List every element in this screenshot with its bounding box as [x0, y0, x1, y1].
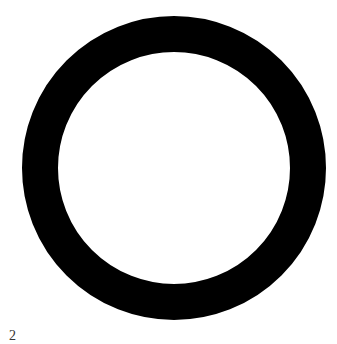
figure-number-label: 2 [9, 328, 16, 344]
black-ring [22, 16, 326, 320]
